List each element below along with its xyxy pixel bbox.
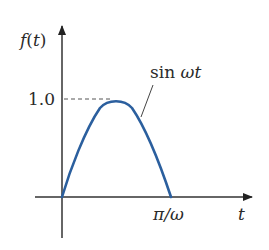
curve-label-leader-line: [141, 85, 153, 117]
y-tick-label: 1.0: [28, 89, 55, 109]
chart-canvas: f(t) 1.0 t π/ω sin ωt: [0, 0, 269, 250]
sine-curve: [62, 101, 171, 197]
x-axis-label: t: [238, 204, 245, 224]
y-axis-label: f(t): [18, 30, 46, 50]
curve-annotation: sin ωt: [150, 62, 201, 82]
x-tick-label: π/ω: [152, 204, 184, 224]
